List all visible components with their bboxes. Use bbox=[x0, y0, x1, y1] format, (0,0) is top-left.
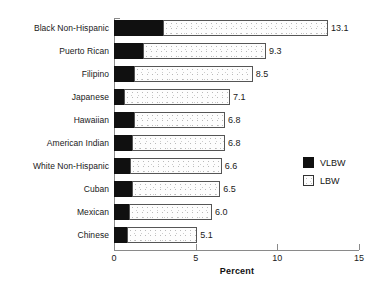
x-axis-title: Percent bbox=[114, 266, 360, 276]
y-axis-top-tick bbox=[114, 18, 120, 19]
bar-segment-vlbw bbox=[114, 135, 132, 151]
bar-value-label: 13.1 bbox=[331, 20, 349, 36]
bar-value-label: 6.5 bbox=[223, 181, 236, 197]
bar-value-label: 8.5 bbox=[256, 66, 269, 82]
category-label: Hawaiian bbox=[0, 112, 109, 128]
x-axis-tick-label: 5 bbox=[193, 253, 198, 263]
bar-segment-vlbw bbox=[114, 66, 134, 82]
bar-segment-lbw bbox=[132, 135, 225, 151]
category-axis-labels: Black Non-Hispanic Puerto Rican Filipino… bbox=[0, 20, 109, 250]
stacked-bar-chart: Black Non-Hispanic Puerto Rican Filipino… bbox=[0, 0, 380, 287]
bar-segment-vlbw bbox=[114, 112, 134, 128]
bar-value-label: 6.8 bbox=[228, 112, 241, 128]
bar-series-container: 13.19.38.57.16.86.86.66.56.05.1 bbox=[114, 20, 348, 250]
x-axis-tick-label: 0 bbox=[111, 253, 116, 263]
bar-value-label: 6.0 bbox=[215, 204, 228, 220]
bar-segment-lbw bbox=[134, 66, 253, 82]
bar-segment-vlbw bbox=[114, 227, 127, 243]
bar-segment-lbw bbox=[134, 112, 225, 128]
x-axis-tick-label: 10 bbox=[272, 253, 282, 263]
bar-row: 6.8 bbox=[114, 135, 348, 151]
bar-value-label: 9.3 bbox=[269, 43, 282, 59]
legend-item-lbw: LBW bbox=[303, 175, 346, 186]
category-label: Cuban bbox=[0, 181, 109, 197]
bar-row: 13.1 bbox=[114, 20, 348, 36]
x-axis-tick bbox=[359, 244, 360, 250]
x-axis-tick bbox=[196, 244, 197, 250]
bar-row: 6.0 bbox=[114, 204, 348, 220]
bar-row: 7.1 bbox=[114, 89, 348, 105]
legend-label-vlbw: VLBW bbox=[320, 158, 346, 168]
chart-legend: VLBW LBW bbox=[303, 157, 346, 193]
legend-item-vlbw: VLBW bbox=[303, 157, 346, 168]
bar-row: 6.8 bbox=[114, 112, 348, 128]
legend-swatch-icon-lbw bbox=[303, 175, 314, 186]
bar-row: 5.1 bbox=[114, 227, 348, 243]
bar-segment-vlbw bbox=[114, 20, 163, 36]
bar-segment-lbw bbox=[132, 181, 220, 197]
bar-value-label: 5.1 bbox=[200, 227, 213, 243]
bar-row: 9.3 bbox=[114, 43, 348, 59]
bar-segment-vlbw bbox=[114, 181, 132, 197]
legend-label-lbw: LBW bbox=[320, 176, 340, 186]
plot-area: 13.19.38.57.16.86.86.66.56.05.1 bbox=[114, 18, 360, 250]
bar-segment-vlbw bbox=[114, 89, 124, 105]
category-label: White Non-Hispanic bbox=[0, 158, 109, 174]
x-axis-tick bbox=[114, 244, 115, 250]
bar-segment-vlbw bbox=[114, 43, 143, 59]
bar-segment-lbw bbox=[129, 204, 212, 220]
category-label: American Indian bbox=[0, 135, 109, 151]
category-label: Filipino bbox=[0, 66, 109, 82]
category-label: Puerto Rican bbox=[0, 43, 109, 59]
category-label: Black Non-Hispanic bbox=[0, 20, 109, 36]
category-label: Japanese bbox=[0, 89, 109, 105]
bar-segment-lbw bbox=[124, 89, 230, 105]
bar-value-label: 6.8 bbox=[228, 135, 241, 151]
category-label: Chinese bbox=[0, 227, 109, 243]
bar-segment-lbw bbox=[130, 158, 221, 174]
bar-segment-lbw bbox=[143, 43, 266, 59]
bar-segment-lbw bbox=[163, 20, 328, 36]
x-axis-tick bbox=[277, 244, 278, 250]
x-axis-line bbox=[114, 250, 359, 251]
bar-value-label: 7.1 bbox=[233, 89, 246, 105]
legend-swatch-icon-vlbw bbox=[303, 157, 314, 168]
bar-segment-vlbw bbox=[114, 204, 129, 220]
bar-segment-lbw bbox=[127, 227, 197, 243]
bar-row: 8.5 bbox=[114, 66, 348, 82]
x-axis-tick-label: 15 bbox=[354, 253, 364, 263]
bar-segment-vlbw bbox=[114, 158, 130, 174]
bar-value-label: 6.6 bbox=[225, 158, 238, 174]
category-label: Mexican bbox=[0, 204, 109, 220]
